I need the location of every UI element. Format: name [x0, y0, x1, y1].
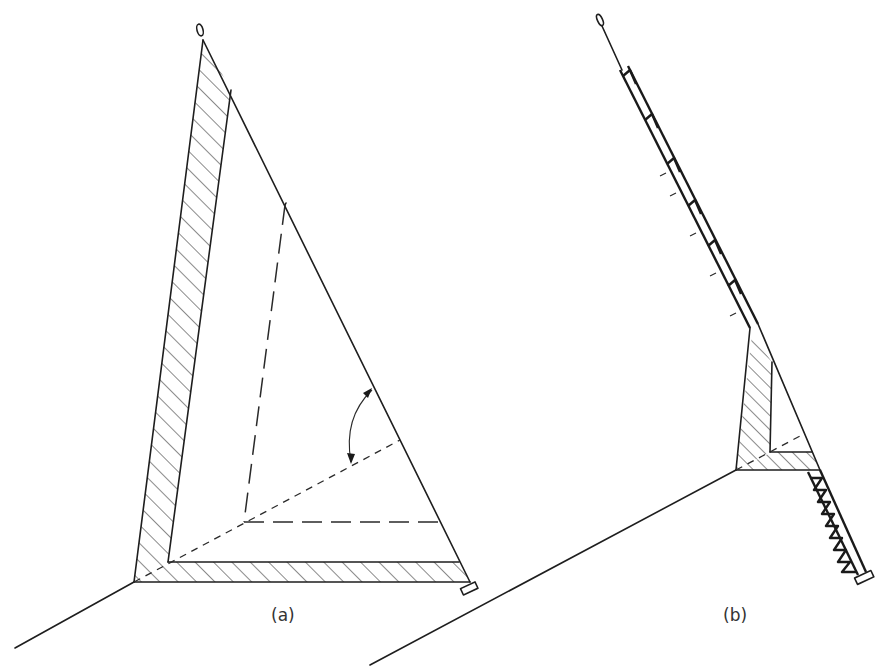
inner-apex-a [285, 203, 286, 205]
angle-arc-a [349, 390, 372, 462]
foot-block-a [460, 582, 477, 595]
hatched-mast-band-b [736, 335, 772, 470]
panel-a [15, 23, 478, 648]
upper-ladder-b [620, 66, 758, 328]
hatched-base-band-a [134, 562, 470, 582]
arc-arrowhead-bottom-icon [347, 453, 355, 464]
dashed-inner-edge-a [244, 205, 285, 522]
panel-label-a: (a) [271, 605, 295, 625]
lower-ladder-b [808, 470, 866, 575]
arc-arrowhead-top-icon [363, 388, 372, 398]
top-ring-icon-b [595, 14, 605, 27]
hypotenuse-a [203, 40, 470, 582]
diagram-canvas [0, 0, 895, 671]
top-ring-icon-a [196, 23, 205, 36]
top-stay-b [602, 26, 622, 70]
panel-label-b: (b) [723, 605, 747, 625]
ground-line-a [15, 582, 134, 648]
hatched-mast-band-a [134, 40, 231, 582]
